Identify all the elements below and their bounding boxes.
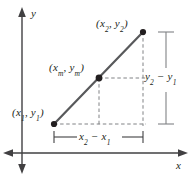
point-2-label: (x2, y2) bbox=[96, 18, 128, 29]
delta-y-label: y2 − y1 bbox=[145, 71, 177, 82]
y-axis-top-arrow-icon bbox=[18, 7, 26, 17]
x-axis-label: x bbox=[176, 160, 181, 171]
x-axis-right-arrow-icon bbox=[178, 149, 188, 157]
midpoint-dot bbox=[96, 75, 103, 82]
geometry-figure: (x2, y2) (xm, ym) (x1, y1) y2 − y1 x2 − … bbox=[0, 0, 192, 176]
x-axis-left-arrow-icon bbox=[3, 149, 13, 157]
point-2-dot bbox=[140, 29, 146, 35]
y-axis-label: y bbox=[31, 8, 36, 19]
point-1-dot bbox=[51, 121, 57, 127]
delta-x-label: x2 − x1 bbox=[79, 131, 111, 142]
point-1-label: (x1, y1) bbox=[12, 107, 44, 118]
y-axis-bottom-arrow-icon bbox=[18, 164, 26, 174]
midpoint-label: (xm, ym) bbox=[49, 62, 84, 73]
